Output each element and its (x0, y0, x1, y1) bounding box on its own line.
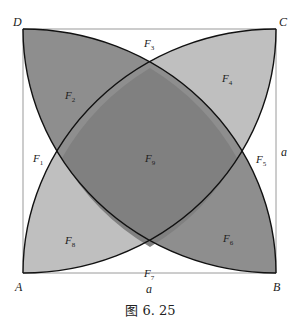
region-f7-label: F7 (143, 267, 155, 282)
vertex-d-label: D (12, 15, 22, 29)
side-bottom-label: a (146, 282, 152, 296)
region-f3-label: F3 (143, 37, 155, 52)
figure-diagram: D C A B a a F1 F2 F3 F4 F5 F6 F7 F8 F9 (0, 0, 301, 325)
region-f5-label: F5 (255, 153, 267, 168)
figure-caption: 图 6. 25 (0, 300, 301, 319)
vertex-a-label: A (14, 280, 23, 294)
side-right-label: a (281, 145, 287, 159)
region-f1-label: F1 (32, 152, 44, 167)
vertex-b-label: B (273, 280, 281, 294)
vertex-c-label: C (279, 15, 288, 29)
